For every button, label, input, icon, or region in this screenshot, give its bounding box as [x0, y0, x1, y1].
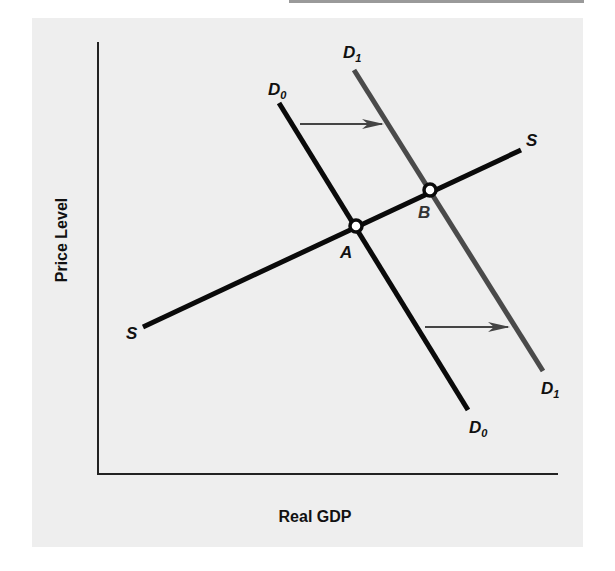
d0-top-label: D0 [268, 80, 287, 101]
d0-bottom-label: D0 [469, 418, 488, 439]
supply-curve [143, 150, 521, 327]
point-a-label: A [339, 243, 352, 262]
supply-demand-diagram: D1 D0 S S A B D1 D0 [0, 0, 615, 571]
point-b-label: B [418, 203, 430, 222]
s-left-label: S [126, 324, 138, 343]
d1-top-label: D1 [343, 43, 361, 64]
equilibrium-point-a [350, 220, 362, 232]
equilibrium-point-b [424, 184, 436, 196]
s-right-label: S [526, 131, 538, 150]
y-axis-label: Price Level [53, 198, 71, 283]
d1-bottom-label: D1 [541, 379, 559, 400]
demand-curve-d0 [279, 103, 468, 410]
demand-curve-d1 [354, 70, 543, 371]
x-axis-label: Real GDP [279, 508, 352, 526]
